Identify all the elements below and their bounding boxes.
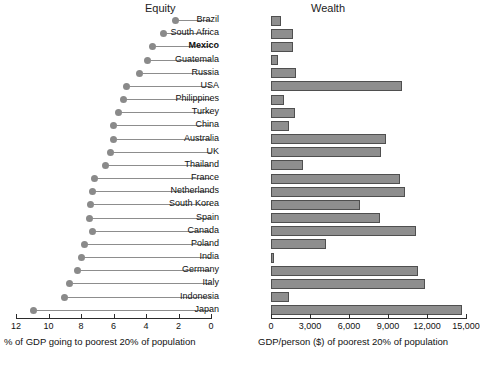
chart-rows: BrazilSouth AfricaMexicoGuatemalaRussiaU… — [0, 14, 488, 317]
equity-connector-line — [37, 310, 211, 311]
table-row: Thailand — [0, 159, 488, 172]
country-label: Guatemala — [175, 53, 219, 66]
country-label: Philippines — [175, 92, 219, 105]
axis-tick — [16, 314, 17, 318]
axis-tick-label: 12 — [11, 321, 21, 331]
country-label: Japan — [194, 303, 219, 316]
equity-dot[interactable] — [61, 294, 68, 301]
equity-dot[interactable] — [102, 162, 109, 169]
axis-tick — [211, 314, 212, 318]
equity-dot[interactable] — [120, 96, 127, 103]
country-label: Russia — [191, 66, 219, 79]
table-row: France — [0, 172, 488, 185]
table-row: Netherlands — [0, 185, 488, 198]
country-label: India — [199, 250, 219, 263]
equity-connector-line — [92, 218, 211, 219]
axis-tick — [81, 314, 82, 318]
country-label: France — [191, 171, 219, 184]
equity-dot[interactable] — [30, 307, 37, 314]
equity-dot[interactable] — [110, 122, 117, 129]
table-row: Brazil — [0, 14, 488, 27]
equity-dot[interactable] — [89, 228, 96, 235]
wealth-bar[interactable] — [271, 68, 296, 78]
equity-dot[interactable] — [115, 109, 122, 116]
axis-tick-label: 0 — [268, 321, 273, 331]
table-row: South Africa — [0, 27, 488, 40]
axis-tick — [427, 314, 428, 318]
wealth-bar[interactable] — [271, 266, 418, 276]
equity-dot[interactable] — [123, 83, 130, 90]
wealth-bar[interactable] — [271, 55, 278, 65]
country-label: Netherlands — [170, 184, 219, 197]
equity-dot[interactable] — [172, 17, 179, 24]
wealth-bar[interactable] — [271, 134, 386, 144]
country-label: Italy — [202, 276, 219, 289]
equity-dot[interactable] — [86, 215, 93, 222]
equity-dot[interactable] — [136, 70, 143, 77]
axis-tick — [114, 314, 115, 318]
axis-tick-label: 3,000 — [299, 321, 322, 331]
wealth-bar[interactable] — [271, 81, 402, 91]
wealth-bar[interactable] — [271, 16, 281, 26]
equity-dot[interactable] — [91, 175, 98, 182]
axis-tick-label: 4 — [143, 321, 148, 331]
table-row: Australia — [0, 133, 488, 146]
table-row: Mexico — [0, 40, 488, 53]
country-label: Turkey — [192, 105, 219, 118]
axis-tick — [388, 314, 389, 318]
table-row: Russia — [0, 67, 488, 80]
country-label: USA — [200, 79, 219, 92]
equity-dot[interactable] — [81, 241, 88, 248]
equity-dot[interactable] — [160, 30, 167, 37]
equity-dot[interactable] — [74, 267, 81, 274]
table-row: Spain — [0, 212, 488, 225]
equity-axis-line — [16, 318, 212, 319]
country-label: China — [195, 118, 219, 131]
table-row: Turkey — [0, 106, 488, 119]
axis-tick — [271, 314, 272, 318]
equity-dot[interactable] — [87, 201, 94, 208]
axis-tick-label: 9,000 — [377, 321, 400, 331]
equity-connector-line — [113, 152, 211, 153]
wealth-bar[interactable] — [271, 305, 462, 315]
wealth-bar[interactable] — [271, 29, 293, 39]
wealth-bar[interactable] — [271, 95, 284, 105]
country-label: Germany — [182, 263, 219, 276]
axis-tick — [466, 314, 467, 318]
axis-tick-label: 8 — [78, 321, 83, 331]
wealth-bar[interactable] — [271, 213, 380, 223]
wealth-bar[interactable] — [271, 239, 326, 249]
wealth-bar[interactable] — [271, 160, 303, 170]
axis-tick — [349, 314, 350, 318]
wealth-bar[interactable] — [271, 147, 381, 157]
axis-tick-label: 10 — [43, 321, 53, 331]
equity-dot[interactable] — [78, 254, 85, 261]
axis-tick-label: 0 — [208, 321, 213, 331]
country-label: Brazil — [196, 13, 219, 26]
wealth-bar[interactable] — [271, 187, 405, 197]
axis-tick — [146, 314, 147, 318]
equity-dot[interactable] — [107, 149, 114, 156]
table-row: Japan — [0, 304, 488, 317]
axis-tick-label: 15,000 — [452, 321, 480, 331]
wealth-bar[interactable] — [271, 226, 416, 236]
wealth-bar[interactable] — [271, 121, 289, 131]
wealth-bar[interactable] — [271, 42, 293, 52]
wealth-bar[interactable] — [271, 174, 400, 184]
wealth-bar[interactable] — [271, 279, 425, 289]
axis-tick — [49, 314, 50, 318]
equity-dot[interactable] — [144, 57, 151, 64]
equity-dot[interactable] — [66, 280, 73, 287]
equity-dot[interactable] — [110, 136, 117, 143]
equity-dot[interactable] — [149, 43, 156, 50]
chart-canvas: Equity Wealth BrazilSouth AfricaMexicoGu… — [0, 0, 488, 369]
wealth-bar[interactable] — [271, 200, 360, 210]
wealth-bar[interactable] — [271, 292, 289, 302]
table-row: China — [0, 119, 488, 132]
country-label: South Korea — [169, 197, 219, 210]
axis-tick — [310, 314, 311, 318]
wealth-bar[interactable] — [271, 253, 274, 263]
wealth-bar[interactable] — [271, 108, 295, 118]
table-row: India — [0, 251, 488, 264]
equity-dot[interactable] — [89, 188, 96, 195]
